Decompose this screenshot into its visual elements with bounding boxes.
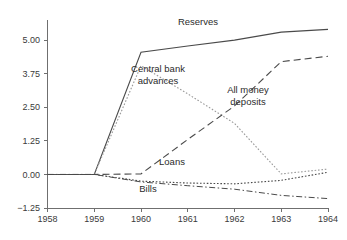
line-chart-plot: 5.003.752.501.250.00−1.25 19581959196019… bbox=[0, 0, 347, 240]
series-annotation-label: Loans bbox=[159, 156, 185, 167]
y-tick-label: 2.50 bbox=[22, 102, 40, 112]
x-tick-labels: 1958195919601961196219631964 bbox=[37, 214, 338, 224]
series-annotation-label: Central bank bbox=[131, 63, 185, 74]
x-tick-label: 1964 bbox=[318, 214, 338, 224]
y-tick-marks bbox=[44, 40, 48, 208]
series-annotation-label: Reserves bbox=[178, 16, 218, 27]
y-tick-label: 3.75 bbox=[22, 69, 40, 79]
y-tick-label: −1.25 bbox=[17, 203, 40, 213]
y-tick-label: 0.00 bbox=[22, 170, 40, 180]
x-tick-label: 1960 bbox=[131, 214, 151, 224]
series-line-central-bank-advances bbox=[48, 66, 329, 175]
series-line-all-money-deposits bbox=[48, 56, 329, 174]
y-tick-label: 5.00 bbox=[22, 35, 40, 45]
series-annotations: ReservesCentral bankadvancesAll moneydep… bbox=[131, 16, 269, 194]
x-tick-label: 1963 bbox=[271, 214, 291, 224]
series-annotation-label: deposits bbox=[230, 96, 266, 107]
y-tick-label: 1.25 bbox=[22, 136, 40, 146]
series-annotation-label: All money bbox=[227, 84, 269, 95]
series-annotation-label: Bills bbox=[139, 183, 157, 194]
x-tick-label: 1962 bbox=[224, 214, 244, 224]
x-tick-label: 1961 bbox=[178, 214, 198, 224]
series-lines bbox=[48, 29, 329, 198]
series-line-reserves bbox=[48, 29, 329, 174]
series-line-bills bbox=[48, 174, 329, 198]
series-annotation-label: advances bbox=[138, 75, 179, 86]
y-tick-labels: 5.003.752.501.250.00−1.25 bbox=[17, 35, 40, 213]
chart-container: 5.003.752.501.250.00−1.25 19581959196019… bbox=[0, 0, 347, 240]
x-tick-label: 1958 bbox=[37, 214, 57, 224]
x-tick-label: 1959 bbox=[84, 214, 104, 224]
